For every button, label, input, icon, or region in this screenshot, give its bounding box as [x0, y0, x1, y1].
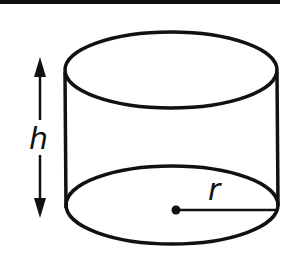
radius-label: r [208, 172, 222, 207]
bottom-ellipse [66, 166, 278, 244]
arrow-down-icon [34, 198, 46, 218]
left-side-line [65, 72, 66, 208]
arrow-up-icon [34, 57, 46, 77]
cylinder-figure: h r [0, 0, 295, 265]
top-ellipse [65, 32, 277, 108]
height-label: h [29, 121, 48, 156]
right-side-line [277, 72, 278, 206]
cylinder-diagram: h r [0, 0, 295, 265]
